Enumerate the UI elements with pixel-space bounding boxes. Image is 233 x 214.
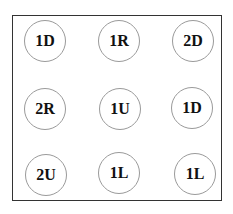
grid-cell-r3c2[interactable]: 1L (98, 152, 140, 194)
cell-label: 1D (182, 99, 202, 117)
cell-label: 1L (110, 164, 129, 182)
grid-cell-r2c1[interactable]: 2R (24, 88, 66, 130)
grid-cell-r2c2[interactable]: 1U (99, 88, 141, 130)
grid-cell-r3c3[interactable]: 1L (174, 153, 216, 195)
cell-label: 2U (36, 166, 56, 184)
cell-label: 1L (186, 165, 205, 183)
grid-cell-r1c2[interactable]: 1R (98, 20, 140, 62)
cell-label: 2D (183, 32, 203, 50)
cell-label: 2R (35, 100, 55, 118)
grid-cell-r1c3[interactable]: 2D (172, 20, 214, 62)
grid-cell-r3c1[interactable]: 2U (25, 154, 67, 196)
cell-label: 1D (35, 32, 55, 50)
grid-cell-r2c3[interactable]: 1D (171, 87, 213, 129)
cell-label: 1R (109, 32, 129, 50)
grid-cell-r1c1[interactable]: 1D (24, 20, 66, 62)
cell-label: 1U (110, 100, 130, 118)
